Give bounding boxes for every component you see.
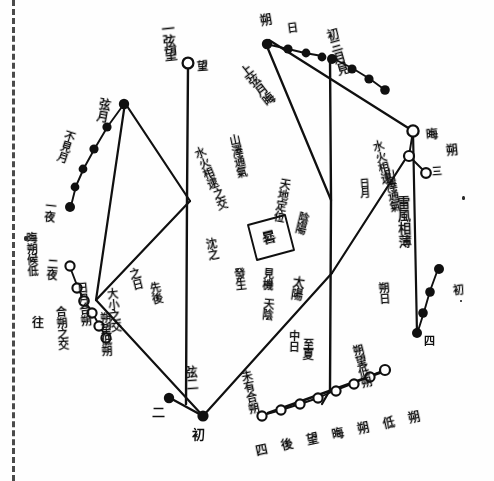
center-radial-7: 發生 bbox=[233, 267, 246, 290]
node-filled bbox=[102, 122, 111, 131]
node-filled bbox=[71, 183, 80, 192]
node-filled bbox=[262, 39, 272, 49]
ink-speck bbox=[462, 196, 465, 200]
node-filled bbox=[418, 308, 428, 318]
label-bottom-mid: 弦二 bbox=[183, 366, 197, 391]
label-left-chain-tail: 一夜 bbox=[43, 199, 56, 222]
node-hollow bbox=[257, 411, 266, 420]
node-hollow bbox=[276, 405, 285, 414]
node-filled bbox=[197, 410, 208, 421]
label-bottom-left: 二 bbox=[152, 406, 165, 419]
label-right-chain-small-b: 四 bbox=[424, 336, 435, 347]
node-hollow bbox=[380, 365, 390, 375]
node-hollow bbox=[349, 379, 358, 388]
node-filled bbox=[89, 144, 98, 153]
label-top-right-a: 朔 bbox=[257, 13, 271, 27]
node-filled bbox=[302, 49, 311, 58]
chain-path-right-small bbox=[418, 269, 438, 331]
label-top: 一弦望 bbox=[160, 21, 177, 61]
center-radial-2: 見機 bbox=[261, 268, 274, 291]
node-filled bbox=[364, 74, 373, 83]
ink-speck bbox=[460, 300, 462, 302]
axis-vertical-right bbox=[330, 57, 331, 390]
center-radial-6: 沈之 bbox=[204, 237, 219, 261]
edge-topleft-to-center bbox=[266, 44, 331, 200]
node-filled bbox=[65, 202, 75, 212]
node-hollow-top bbox=[183, 58, 194, 69]
label-center-lower-b: 天陰 bbox=[261, 297, 274, 320]
node-filled bbox=[119, 99, 129, 109]
label-inner-left-b: 先後 bbox=[148, 281, 163, 305]
node-hollow bbox=[65, 261, 74, 270]
label-right-upper-b: 晦 bbox=[423, 127, 436, 140]
label-right-chain-small-a: 初 bbox=[451, 283, 463, 295]
node-filled bbox=[434, 264, 444, 274]
node-hollow bbox=[331, 386, 340, 395]
label-center-lower-d: 至夏 bbox=[302, 338, 314, 360]
label-top-right-b: 日 bbox=[285, 21, 298, 33]
label-left-lower-b: 往 bbox=[30, 316, 43, 328]
label-top-node: 望 bbox=[196, 60, 208, 72]
edge-left-outer bbox=[96, 103, 125, 300]
axis-vertical-left bbox=[186, 66, 188, 404]
ink-speck bbox=[24, 236, 28, 241]
node-hollow bbox=[404, 151, 414, 161]
label-center-lower-c: 中日 bbox=[288, 330, 300, 352]
label-right-mid-b: 日月 bbox=[357, 178, 369, 199]
node-filled bbox=[412, 328, 422, 338]
label-right-upper-c: 朔 bbox=[443, 143, 456, 156]
node-hollow bbox=[295, 399, 304, 408]
label-right-lower: 朔日 bbox=[377, 282, 390, 305]
node-filled bbox=[79, 165, 88, 174]
node-hollow bbox=[313, 393, 322, 402]
node-filled bbox=[380, 85, 390, 95]
node-hollow bbox=[407, 125, 418, 136]
node-filled bbox=[318, 53, 327, 62]
label-right-upper-d: 三 bbox=[430, 166, 441, 177]
diagonal-upper-left bbox=[125, 103, 190, 201]
label-left-lower-c: 合朔之交 bbox=[54, 306, 68, 351]
center-boxed-label: 晷 bbox=[260, 229, 277, 246]
label-left-mid: 二夜 bbox=[45, 258, 58, 281]
node-filled bbox=[283, 44, 292, 53]
label-bottom-center: 初 bbox=[192, 428, 205, 441]
label-center-lower-a: 太陽 bbox=[288, 275, 303, 300]
chain-path-topright-a bbox=[266, 44, 322, 56]
label-inner-left-d: 朔望低朔 bbox=[99, 312, 112, 356]
node-filled bbox=[164, 393, 174, 403]
diagram-page: 一弦望 望 朔 日 初三月見 上弦月晦 弦月 不見月 一夜 二夜 晦朔候低 往 … bbox=[0, 0, 494, 481]
node-filled bbox=[425, 287, 435, 297]
label-right-vertical: 雷風相薄 bbox=[396, 196, 411, 248]
